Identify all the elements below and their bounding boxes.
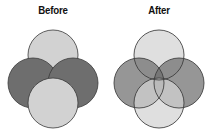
figure-canvas: Before After (0, 0, 212, 136)
panel-after: After (106, 0, 212, 136)
before-bottom-circle (28, 78, 78, 128)
venn-diagram-after (106, 20, 212, 136)
panel-before: Before (0, 0, 106, 136)
panel-before-label: Before (6, 3, 99, 17)
panel-after-label: After (112, 3, 205, 17)
venn-diagram-before (0, 20, 106, 136)
